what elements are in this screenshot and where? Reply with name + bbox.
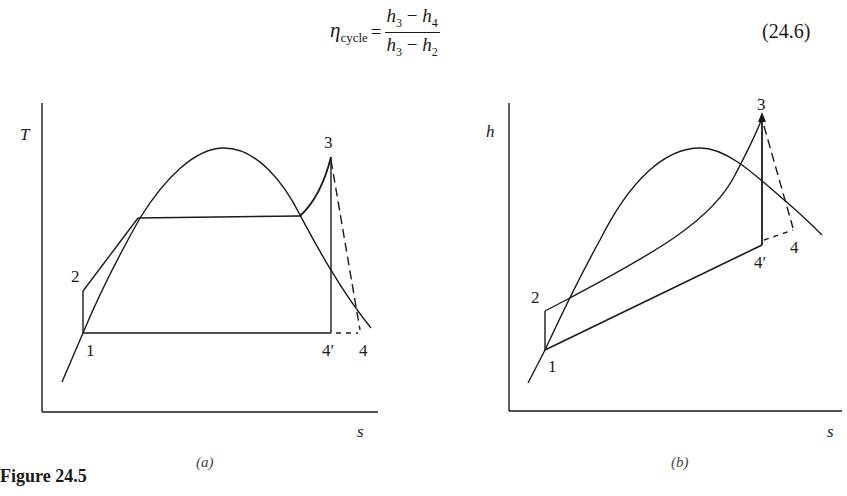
hs-diagram <box>509 103 842 411</box>
process-2-liquid-heating <box>83 218 138 291</box>
process-boiling <box>138 216 300 218</box>
process-superheat <box>300 157 331 216</box>
process-condensation-b <box>545 245 762 350</box>
s-axis-label-b: s <box>827 422 834 441</box>
h-axis-label: h <box>486 122 495 141</box>
process-3-4-actual-b <box>764 126 793 228</box>
panel-a-label: (a) <box>196 454 214 471</box>
point-1-label-b: 1 <box>548 357 557 376</box>
point-4-label-b: 4 <box>790 238 799 257</box>
saturation-dome-b <box>528 148 822 383</box>
point-1-label-a: 1 <box>86 341 95 360</box>
point-4-label-a: 4 <box>359 341 368 360</box>
s-axis-label-a: s <box>357 422 364 441</box>
point-4prime-label-b: 4′ <box>754 253 766 272</box>
panel-b-label: (b) <box>671 454 689 471</box>
figure-diagrams: T s 2 1 3 4′ 4 (a) h s 2 1 3 4′ 4 (b) <box>0 0 847 496</box>
process-3-4-actual <box>331 160 360 330</box>
line-4prime-4-b <box>764 230 793 240</box>
point-4prime-label-a: 4′ <box>322 341 334 360</box>
point-2-label-b: 2 <box>531 288 540 307</box>
figure-caption: Figure 24.5 <box>0 466 87 487</box>
point-3-label-a: 3 <box>324 133 333 152</box>
point-3-label-b: 3 <box>757 95 766 114</box>
point-2-label-a: 2 <box>71 267 80 286</box>
t-axis-label: T <box>20 125 31 144</box>
